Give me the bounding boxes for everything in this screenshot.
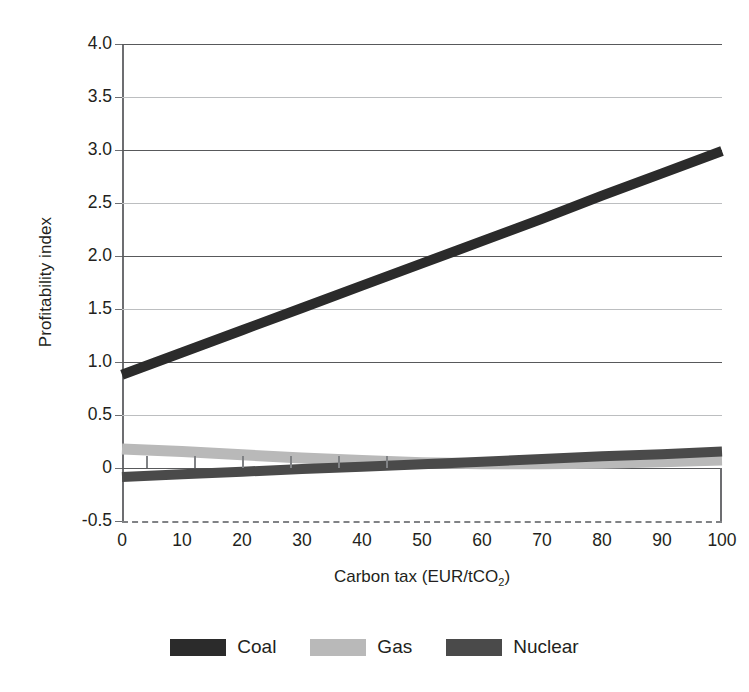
legend-label-gas: Gas [377, 636, 412, 658]
profitability-index-chart: Profitability index -0.500.51.01.52.02.5… [0, 0, 749, 692]
x-axis-tick-labels: 0102030405060708090100 [0, 532, 749, 560]
legend-label-coal: Coal [237, 636, 276, 658]
x-tick-label: 80 [572, 532, 632, 550]
x-tick-label: 0 [92, 532, 152, 550]
y-tick-mark [115, 468, 122, 469]
legend-item-gas[interactable]: Gas [310, 636, 412, 658]
y-tick-mark [115, 203, 122, 204]
plot-area [122, 44, 722, 521]
y-tick-mark [115, 97, 122, 98]
x-axis-right-cap [720, 468, 722, 521]
y-tick-mark [115, 44, 122, 45]
x-tick-label: 90 [632, 532, 692, 550]
x-tick-label: 60 [452, 532, 512, 550]
y-tick-mark [115, 521, 122, 522]
y-tick-mark [115, 415, 122, 416]
legend-swatch-nuclear [446, 639, 502, 656]
x-axis-title: Carbon tax (EUR/tCO2) [122, 567, 722, 587]
x-axis-title-prefix: Carbon tax (EUR/tCO [334, 567, 498, 586]
x-axis-title-subscript: 2 [498, 576, 504, 588]
legend-label-nuclear: Nuclear [513, 636, 578, 658]
y-tick-label: 1.0 [58, 353, 112, 371]
x-tick-label: 30 [272, 532, 332, 550]
legend-swatch-gas [310, 639, 366, 656]
y-tick-label: 1.5 [58, 300, 112, 318]
y-axis-title: Profitability index [36, 172, 56, 392]
x-tick-label: 40 [332, 532, 392, 550]
series-line-coal [122, 151, 722, 375]
y-tick-mark [115, 309, 122, 310]
y-tick-label: -0.5 [58, 512, 112, 530]
y-tick-label: 2.0 [58, 247, 112, 265]
x-tick-label: 100 [692, 532, 749, 550]
series-lines [122, 44, 722, 521]
legend-swatch-coal [170, 639, 226, 656]
legend-item-nuclear[interactable]: Nuclear [446, 636, 578, 658]
y-tick-label: 3.0 [58, 141, 112, 159]
gridline--0_5 [122, 521, 722, 523]
x-tick-label: 10 [152, 532, 212, 550]
legend-item-coal[interactable]: Coal [170, 636, 276, 658]
y-tick-mark [115, 362, 122, 363]
y-tick-label: 3.5 [58, 88, 112, 106]
y-tick-mark [115, 256, 122, 257]
x-tick-label: 50 [392, 532, 452, 550]
y-tick-label: 2.5 [58, 194, 112, 212]
y-tick-mark [115, 150, 122, 151]
chart-legend: CoalGasNuclear [0, 636, 749, 658]
y-tick-label: 4.0 [58, 35, 112, 53]
x-tick-label: 20 [212, 532, 272, 550]
x-tick-label: 70 [512, 532, 572, 550]
y-tick-label: 0.5 [58, 406, 112, 424]
y-axis-tick-labels: -0.500.51.01.52.02.53.03.54.0 [56, 0, 112, 560]
y-tick-label: 0 [58, 459, 112, 477]
x-axis-title-suffix: ) [504, 567, 510, 586]
